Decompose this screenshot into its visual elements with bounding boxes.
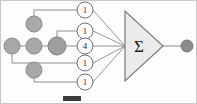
fanin-weight-5	[93, 46, 125, 82]
wire-node-center-to-weight-2	[57, 31, 77, 38]
diagram-figure: Σ 1 1 4 1	[0, 0, 197, 104]
wire-group-inputs	[12, 10, 77, 82]
input-node-top	[26, 16, 42, 32]
output-node	[181, 40, 193, 52]
caption-bar	[63, 96, 81, 101]
input-node-left	[4, 38, 20, 54]
fanin-weight-2	[93, 31, 125, 46]
weight-5: 1	[77, 74, 93, 90]
weight-value-4: 1	[83, 58, 88, 68]
fanin-weight-4	[93, 46, 125, 63]
weight-2: 1	[77, 23, 93, 39]
wire-node-bottom-to-weight-5	[34, 78, 77, 82]
wire-node-left-to-weight-4	[12, 54, 77, 63]
weight-3: 4	[77, 38, 93, 54]
weight-value-3: 4	[83, 41, 88, 51]
input-node-center-left	[26, 38, 42, 54]
input-node-center	[48, 37, 66, 55]
weight-value-5: 1	[83, 77, 88, 87]
input-node-bottom	[26, 62, 42, 78]
summation-triangle	[125, 11, 163, 81]
input-node-group	[4, 16, 66, 78]
wire-node-top-to-weight-1	[34, 10, 77, 16]
diagram-canvas: Σ 1 1 4 1	[1, 1, 197, 104]
wire-group-fanin	[93, 10, 125, 82]
summation-symbol: Σ	[134, 37, 144, 56]
weight-value-1: 1	[83, 5, 88, 15]
weight-value-2: 1	[83, 26, 88, 36]
weight-circle-group: 1 1 4 1 1	[77, 2, 93, 90]
weight-1: 1	[77, 2, 93, 18]
weight-4: 1	[77, 55, 93, 71]
fanin-weight-1	[93, 10, 125, 46]
